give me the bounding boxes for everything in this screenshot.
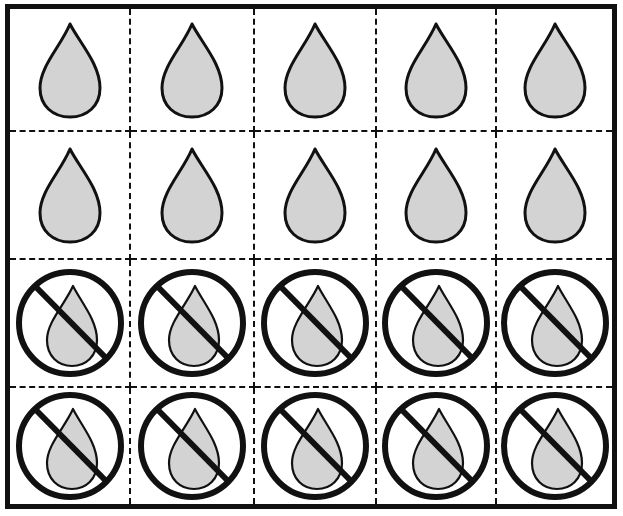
no-water-drop-icon xyxy=(135,389,249,503)
card-cell-r2-c1 xyxy=(10,132,131,260)
card-cell-r2-c3 xyxy=(255,132,377,260)
water-drop-icon xyxy=(401,145,471,245)
cutout-card-grid xyxy=(5,4,617,509)
card-cell-r1-c5 xyxy=(497,9,612,132)
water-drop-icon xyxy=(157,20,227,120)
card-cell-r1-c3 xyxy=(255,9,377,132)
no-water-drop-icon xyxy=(498,389,612,503)
no-water-drop-icon xyxy=(258,389,372,503)
water-drop-icon xyxy=(520,145,590,245)
card-cell-r4-c3 xyxy=(255,388,377,504)
water-drop-icon xyxy=(401,20,471,120)
card-cell-r4-c5 xyxy=(497,388,612,504)
water-drop-icon xyxy=(157,145,227,245)
card-cell-r4-c1 xyxy=(10,388,131,504)
card-cell-r1-c2 xyxy=(131,9,255,132)
card-cell-r1-c1 xyxy=(10,9,131,132)
card-cell-r3-c5 xyxy=(497,260,612,388)
no-water-drop-icon xyxy=(379,389,493,503)
water-drop-icon xyxy=(280,20,350,120)
card-cell-r2-c2 xyxy=(131,132,255,260)
card-cell-r3-c1 xyxy=(10,260,131,388)
no-water-drop-icon xyxy=(379,266,493,380)
no-water-drop-icon xyxy=(258,266,372,380)
no-water-drop-icon xyxy=(13,266,127,380)
card-cell-r4-c2 xyxy=(131,388,255,504)
water-drop-icon xyxy=(35,145,105,245)
water-drop-icon xyxy=(280,145,350,245)
no-water-drop-icon xyxy=(13,389,127,503)
card-cell-r2-c4 xyxy=(377,132,497,260)
card-cell-r4-c4 xyxy=(377,388,497,504)
card-cell-r2-c5 xyxy=(497,132,612,260)
water-drop-icon xyxy=(35,20,105,120)
card-cell-r3-c4 xyxy=(377,260,497,388)
no-water-drop-icon xyxy=(135,266,249,380)
water-drop-icon xyxy=(520,20,590,120)
no-water-drop-icon xyxy=(498,266,612,380)
card-cell-r3-c3 xyxy=(255,260,377,388)
card-cell-r3-c2 xyxy=(131,260,255,388)
card-cell-r1-c4 xyxy=(377,9,497,132)
